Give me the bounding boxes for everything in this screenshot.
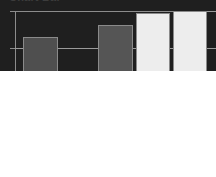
chart-title: Chart Bar	[9, 0, 61, 4]
bar-1[interactable]	[23, 37, 58, 71]
chart-plot-area	[15, 11, 207, 71]
bar-chart-screenshot: Chart Bar	[0, 0, 216, 71]
bar-5[interactable]	[173, 11, 207, 71]
bar-3[interactable]	[98, 25, 133, 71]
gridline-stub-100	[207, 11, 216, 12]
bar-4[interactable]	[136, 13, 170, 71]
gridline-stub-75	[207, 48, 216, 49]
y-axis	[15, 11, 16, 71]
y-tick-100	[10, 11, 15, 12]
y-tick-75	[10, 48, 15, 49]
